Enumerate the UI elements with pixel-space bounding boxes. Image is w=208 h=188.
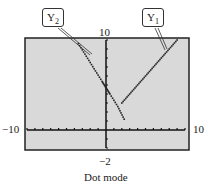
y1-dot xyxy=(129,93,131,95)
y1-dot xyxy=(153,66,155,68)
y1-dot xyxy=(128,95,130,97)
y2-dot xyxy=(95,70,97,72)
y2-subscript: 2 xyxy=(55,17,59,26)
y1-dot xyxy=(175,41,177,43)
y2-callout: Y2 xyxy=(42,8,64,27)
y2-dot xyxy=(121,114,123,116)
y1-dot xyxy=(164,53,166,55)
y1-dot xyxy=(161,57,163,59)
y1-dot xyxy=(132,90,134,92)
y1-dot xyxy=(138,83,140,85)
y1-dot xyxy=(146,74,148,76)
y2-dot xyxy=(113,100,115,102)
y2-dot xyxy=(87,58,89,60)
caption: Dot mode xyxy=(84,171,128,183)
y1-dot xyxy=(125,98,127,100)
y2-dot xyxy=(89,62,91,64)
y2-dot xyxy=(114,102,116,104)
y1-dot xyxy=(168,48,170,50)
y2-dot xyxy=(122,116,124,118)
xmin-label: −10 xyxy=(2,123,19,135)
y1-dot xyxy=(149,71,151,73)
y2-dot xyxy=(99,76,101,78)
y1-dot xyxy=(174,42,176,44)
y2-dot xyxy=(88,60,90,62)
y2-dot xyxy=(92,66,94,68)
xmax-label: 10 xyxy=(193,123,204,135)
y1-dot xyxy=(142,78,144,80)
y2-dot xyxy=(84,53,86,55)
y1-dot xyxy=(158,60,160,62)
y1-dot xyxy=(176,39,178,41)
y1-dot xyxy=(130,92,132,94)
y1-dot xyxy=(143,77,145,79)
y1-dot xyxy=(126,96,128,98)
y1-dot xyxy=(172,44,174,46)
y1-callout: Y1 xyxy=(142,8,164,27)
y1-dot xyxy=(147,72,149,74)
y1-dot xyxy=(159,59,161,61)
ymin-label: −2 xyxy=(99,155,111,167)
y1-subscript: 1 xyxy=(155,17,159,26)
y2-dot xyxy=(118,108,120,110)
y2-dot xyxy=(123,118,125,120)
y1-dot xyxy=(150,69,152,71)
y2-dot xyxy=(97,74,99,76)
y1-label: Y xyxy=(147,11,155,23)
y1-dot xyxy=(154,65,156,67)
y2-dot xyxy=(85,55,87,57)
y2-dot xyxy=(110,95,112,97)
y1-dot xyxy=(167,50,169,52)
y2-dot xyxy=(109,93,111,95)
y2-dot xyxy=(96,72,98,74)
y1-dot xyxy=(151,68,153,70)
y1-dot xyxy=(155,63,157,65)
y1-dot xyxy=(137,84,139,86)
y1-dot xyxy=(135,86,137,88)
y2-dot xyxy=(120,112,122,114)
y2-dot xyxy=(93,68,95,70)
y1-dot xyxy=(121,102,123,104)
y2-dot xyxy=(91,64,93,66)
y1-dot xyxy=(139,81,141,83)
y1-dot xyxy=(122,101,124,103)
ymax-label: 10 xyxy=(99,26,110,38)
y1-dot xyxy=(145,75,147,77)
y1-dot xyxy=(157,62,159,64)
y1-dot xyxy=(163,54,165,56)
y1-dot xyxy=(166,51,168,53)
y1-dot xyxy=(134,87,136,89)
y1-dot xyxy=(141,80,143,82)
y2-label: Y xyxy=(47,11,55,23)
y2-dot xyxy=(119,110,121,112)
y1-dot xyxy=(124,99,126,101)
y2-dot xyxy=(116,104,118,106)
y2-dot xyxy=(117,106,119,108)
y2-dot xyxy=(100,79,102,81)
y1-dot xyxy=(170,47,172,49)
y2-dot xyxy=(112,97,114,99)
y2-dot xyxy=(83,51,85,53)
y1-dot xyxy=(162,56,164,58)
y1-dot xyxy=(171,45,173,47)
y1-dot xyxy=(133,89,135,91)
